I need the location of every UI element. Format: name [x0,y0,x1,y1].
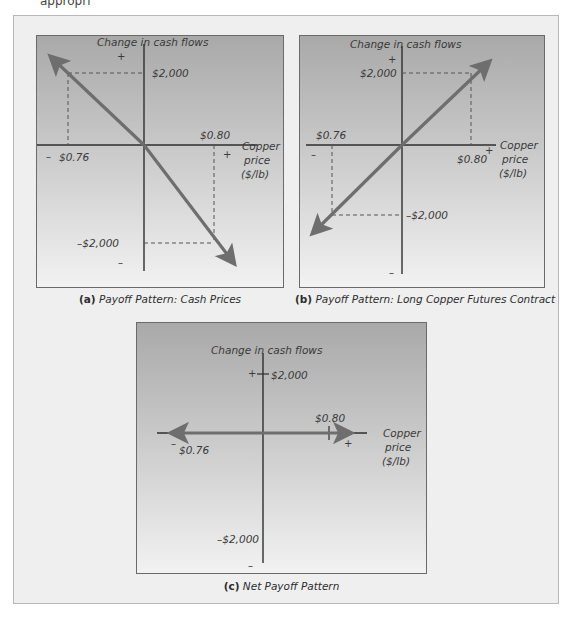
y-pos-value: $2,000 [360,67,397,79]
y-axis-label: Change in cash flows [97,36,209,48]
caption-b-text: Payoff Pattern: Long Copper Futures Cont… [315,293,555,305]
payoff-arrow-up-right [402,63,488,145]
x-high-value: $0.80 [200,129,230,141]
y-minus-sign: – [118,257,123,268]
y-neg-value: –$2,000 [406,209,448,221]
x-high-value: $0.80 [457,153,487,165]
caption-c-tag: (c) [224,580,240,592]
y-axis-label: Change in cash flows [350,38,462,50]
y-minus-sign: – [248,560,253,571]
x-minus-sign: – [311,149,316,160]
panel-a-cash-prices: Change in cash flows + – $2,000 –$2,000 … [36,35,284,288]
panel-b-plot: Change in cash flows + – $2,000 –$2,000 … [300,36,546,289]
x-axis-label-line2: price [384,441,411,453]
caption-b-tag: (b) [295,293,312,305]
panel-c-net-payoff: Change in cash flows + – $2,000 –$2,000 … [136,322,427,574]
caption-a: (a) Payoff Pattern: Cash Prices [36,293,284,305]
caption-b: (b) Payoff Pattern: Long Copper Futures … [294,293,556,305]
x-plus-sign: + [223,149,231,160]
caption-a-tag: (a) [79,293,96,305]
payoff-arrow-down-right [144,145,233,262]
x-plus-sign: + [485,145,493,156]
y-neg-value: –$2,000 [77,237,119,249]
x-plus-sign: + [344,438,352,449]
cropped-text-fragment: appropri [40,0,90,8]
x-high-value: $0.80 [315,412,345,424]
x-axis-label-line2: price [243,154,270,166]
x-minus-sign: – [171,438,176,449]
payoff-arrow-down-left [314,145,402,232]
x-axis-label-line3: ($/lb) [499,167,527,179]
x-low-value: $0.76 [316,129,346,141]
x-low-value: $0.76 [59,151,89,163]
panel-b-long-futures: Change in cash flows + – $2,000 –$2,000 … [299,35,545,288]
x-axis-label-line3: ($/lb) [241,168,269,180]
y-plus-sign: + [248,368,256,379]
y-plus-sign: + [117,51,125,62]
x-axis-label-line2: price [501,153,528,165]
x-axis-label-line1: Copper [500,139,539,151]
y-neg-value: –$2,000 [217,533,259,545]
caption-a-text: Payoff Pattern: Cash Prices [99,293,241,305]
x-axis-label-line3: ($/lb) [382,455,410,467]
payoff-arrow-up-left [52,58,144,145]
y-pos-value: $2,000 [152,67,189,79]
caption-c-text: Net Payoff Pattern [243,580,340,592]
y-minus-sign: – [389,267,394,278]
x-minus-sign: – [46,151,51,162]
caption-c: (c) Net Payoff Pattern [136,580,427,592]
x-low-value: $0.76 [179,444,209,456]
y-axis-label: Change in cash flows [211,344,323,356]
x-axis-label-line1: Copper [242,140,281,152]
y-plus-sign: + [388,54,396,65]
x-axis-label-line1: Copper [383,427,422,439]
panel-a-plot: Change in cash flows + – $2,000 –$2,000 … [37,36,285,289]
y-pos-value: $2,000 [271,369,308,381]
panel-c-plot: Change in cash flows + – $2,000 –$2,000 … [137,323,428,575]
